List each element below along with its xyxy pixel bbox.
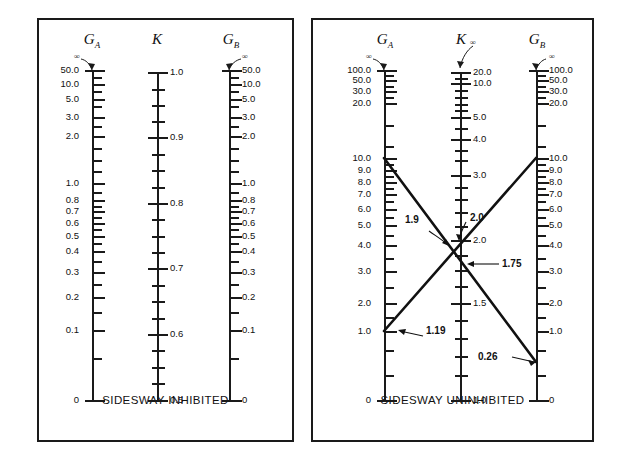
left-ga-tick xyxy=(94,229,102,231)
scale-letter: G xyxy=(223,31,234,47)
left-gb-tick xyxy=(231,330,242,332)
left-k-tick xyxy=(148,400,168,402)
right-k-tick xyxy=(455,255,468,257)
right-ga-tick xyxy=(386,317,394,319)
right-gb-tick-label: 6.0 xyxy=(549,204,562,214)
right-k-infinity-symbol: ∞ xyxy=(470,38,476,47)
left-k-tick xyxy=(152,219,165,221)
right-gb-tick xyxy=(538,287,546,289)
right-gb-tick xyxy=(538,331,549,333)
right-k-tick xyxy=(455,375,468,377)
left-k-tick-label: 0.7 xyxy=(170,263,183,273)
scale-letter: G xyxy=(529,31,540,47)
left-ga-tick xyxy=(94,200,105,202)
right-ga-tick xyxy=(386,75,394,77)
right-ga-tick-label: 0 xyxy=(366,395,371,405)
left-gb-tick-label: 10.0 xyxy=(242,79,261,89)
right-ga-tick-label: 20.0 xyxy=(353,98,372,108)
left-ga-tick xyxy=(94,136,105,138)
left-ga-tick xyxy=(94,99,105,101)
right-gb-tick-label: 2.0 xyxy=(549,298,562,308)
scale-title-right-ga: GA xyxy=(377,31,393,50)
left-ga-tick-label: 5.0 xyxy=(66,94,79,104)
right-gb-tick-label: 8.0 xyxy=(549,177,562,187)
right-k-tick-label: 2.0 xyxy=(473,235,486,245)
left-gb-tick-label: 0.2 xyxy=(242,292,255,302)
left-k-tick-label: 0.6 xyxy=(170,329,183,339)
right-ga-tick xyxy=(386,235,394,237)
right-gb-tick-label: 3.0 xyxy=(549,266,562,276)
right-k-tick-label: 4.0 xyxy=(473,134,486,144)
left-k-tick xyxy=(152,89,165,91)
right-ga-tick-label: 30.0 xyxy=(353,86,372,96)
left-ga-tick xyxy=(94,84,105,86)
right-ga-tick xyxy=(386,164,394,166)
right-k-tick xyxy=(451,117,471,119)
right-ga-infinity-symbol: ∞ xyxy=(366,52,372,61)
left-gb-tick xyxy=(231,183,242,185)
left-gb-tick xyxy=(231,117,242,119)
right-gb-tick xyxy=(538,182,549,184)
left-gb-tick xyxy=(231,99,242,101)
left-k-tick xyxy=(152,252,165,254)
right-ga-tick xyxy=(386,201,394,203)
left-gb-tick-label: 0.6 xyxy=(242,218,255,228)
right-k-tick xyxy=(455,212,468,214)
left-k-tick xyxy=(152,350,165,352)
right-ga-tick-label: 6.0 xyxy=(358,204,371,214)
right-k-tick xyxy=(455,199,468,201)
left-ga-tick-label: 0.2 xyxy=(66,292,79,302)
left-ga-tick xyxy=(94,261,102,263)
right-k-tick-label: 10.0 xyxy=(473,78,492,88)
left-ga-tick-label: 0.6 xyxy=(66,218,79,228)
left-ga-tick xyxy=(94,272,105,274)
right-ga-tick-label: 1.0 xyxy=(358,326,371,336)
left-gb-tick xyxy=(231,211,242,213)
left-gb-tick xyxy=(231,148,239,150)
left-gb-tick xyxy=(231,243,239,245)
right-ga-tick xyxy=(386,146,394,148)
left-gb-tick xyxy=(231,91,239,93)
right-k-tick xyxy=(455,104,468,106)
left-k-tick xyxy=(152,367,165,369)
left-gb-tick xyxy=(231,160,239,162)
right-ga-tick xyxy=(386,258,394,260)
right-ga-tick-label: 3.0 xyxy=(358,266,371,276)
figure-canvas: SIDESWAY INHIBITED SIDESWAY UNINHIBITED … xyxy=(0,0,629,460)
annotation-k-2p0: 2.0 xyxy=(470,213,484,223)
left-ga-tick xyxy=(94,77,102,79)
right-k-tick xyxy=(455,90,468,92)
right-gb-tick-label: 1.0 xyxy=(549,326,562,336)
left-ga-tick-label: 0 xyxy=(74,395,79,405)
right-gb-tick xyxy=(538,146,546,148)
left-gb-tick-label: 0.7 xyxy=(242,206,255,216)
right-k-tick-label: 3.0 xyxy=(473,170,486,180)
right-ga-tick xyxy=(386,125,394,127)
left-k-tick xyxy=(152,236,165,238)
scale-letter: K xyxy=(152,31,162,47)
left-ga-tick-label: 0.5 xyxy=(66,231,79,241)
right-ga-tick-label: 2.0 xyxy=(358,298,371,308)
right-ga-tick xyxy=(386,86,394,88)
left-gb-tick-label: 50.0 xyxy=(242,65,261,75)
left-ga-tick xyxy=(94,160,102,162)
left-k-tick-label: 0.5 xyxy=(170,395,183,405)
left-ga-tick xyxy=(94,117,105,119)
right-ga-tick xyxy=(386,80,397,82)
left-ga-tick-label: 2.0 xyxy=(66,131,79,141)
right-gb-tick xyxy=(538,86,546,88)
right-gb-tick-label: 10.0 xyxy=(549,153,568,163)
left-ga-tick xyxy=(94,126,102,128)
left-k-tick xyxy=(152,121,165,123)
annotation-k-1p75: 1.75 xyxy=(502,259,521,269)
annotation-ga-1p19: 1.19 xyxy=(426,326,445,336)
scale-subscript: B xyxy=(234,40,240,50)
right-ga-tick xyxy=(386,97,394,99)
right-gb-tick-label: 4.0 xyxy=(549,240,562,250)
right-ga-tick xyxy=(386,103,397,105)
left-gb-tick-label: 0.4 xyxy=(242,246,255,256)
right-gb-tick xyxy=(538,91,549,93)
right-gb-tick xyxy=(538,303,549,305)
right-ga-tick xyxy=(386,182,397,184)
right-gb-tick-label: 5.0 xyxy=(549,220,562,230)
